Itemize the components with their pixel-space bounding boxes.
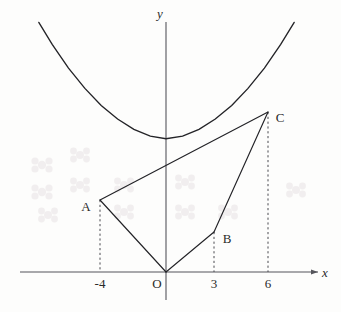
chord-OA — [100, 200, 166, 272]
point-label-C: C — [276, 110, 285, 125]
chord-AC — [100, 112, 268, 200]
x-axis-label: x — [321, 265, 328, 280]
figure-canvas: ‾‾ ‾‾ ‾‾‾‾ ‾ ‾ ‾‾‾‾ ‾ ‾ — [0, 0, 341, 312]
point-label-A: A — [81, 199, 91, 214]
x-tick-label-minus-4: -4 — [95, 276, 106, 291]
x-tick-label-3: 3 — [211, 276, 218, 291]
watermark-group — [31, 148, 306, 223]
point-label-B: B — [223, 231, 232, 246]
chord-BC — [214, 112, 268, 232]
origin-label: O — [152, 276, 161, 291]
x-axis-arrow-icon — [311, 269, 318, 274]
x-tick-label-6: 6 — [265, 276, 272, 291]
chord-OB — [166, 232, 214, 272]
parabola-diagram: y x -4 3 6 O A B C — [0, 0, 341, 312]
y-axis-label: y — [155, 6, 163, 21]
